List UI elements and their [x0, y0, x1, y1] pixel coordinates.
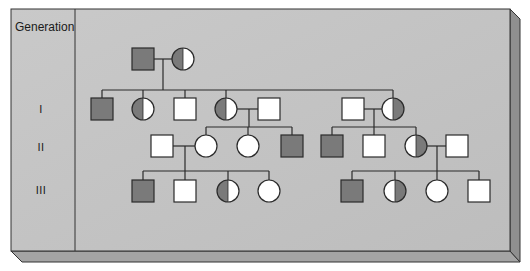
male-affected-symbol	[91, 98, 113, 120]
unaffected-male-square	[151, 135, 173, 157]
male-unaffected-symbol	[174, 180, 196, 202]
male-unaffected-symbol	[468, 180, 490, 202]
male-unaffected-symbol	[363, 135, 385, 157]
pedigree-chart: Generation I II III	[0, 0, 530, 271]
affected-male-square	[321, 135, 343, 157]
female-carrier-symbol	[382, 98, 404, 120]
unaffected-male-square	[446, 135, 468, 157]
unaffected-male-square	[342, 98, 364, 120]
female-carrier-symbol	[172, 48, 194, 70]
female-carrier-symbol	[217, 180, 239, 202]
female-unaffected-symbol	[195, 135, 217, 157]
generation-label-3: III	[21, 184, 61, 196]
male-unaffected-symbol	[342, 98, 364, 120]
pedigree-canvas	[0, 0, 530, 271]
affected-male-square	[91, 98, 113, 120]
male-affected-symbol	[132, 180, 154, 202]
unaffected-male-square	[174, 180, 196, 202]
affected-male-square	[281, 135, 303, 157]
female-carrier-symbol	[215, 98, 237, 120]
generation-label-1: I	[21, 103, 61, 115]
male-affected-symbol	[341, 180, 363, 202]
affected-male-square	[132, 48, 154, 70]
unaffected-male-square	[363, 135, 385, 157]
generation-header: Generation	[15, 20, 74, 34]
male-affected-symbol	[321, 135, 343, 157]
panel-side-bevel	[510, 9, 520, 262]
generation-label-2: II	[21, 141, 61, 153]
panel-bottom-bevel	[11, 251, 520, 262]
male-unaffected-symbol	[258, 98, 280, 120]
female-unaffected-symbol	[237, 135, 259, 157]
female-carrier-symbol	[405, 135, 427, 157]
male-affected-symbol	[132, 48, 154, 70]
male-unaffected-symbol	[151, 135, 173, 157]
male-affected-symbol	[281, 135, 303, 157]
male-unaffected-symbol	[446, 135, 468, 157]
unaffected-male-square	[258, 98, 280, 120]
affected-male-square	[132, 180, 154, 202]
female-carrier-symbol	[384, 180, 406, 202]
female-unaffected-symbol	[258, 180, 280, 202]
unaffected-male-square	[174, 98, 196, 120]
female-carrier-symbol	[132, 98, 154, 120]
male-unaffected-symbol	[174, 98, 196, 120]
panel-face	[11, 9, 510, 251]
unaffected-male-square	[468, 180, 490, 202]
affected-male-square	[341, 180, 363, 202]
female-unaffected-symbol	[426, 180, 448, 202]
